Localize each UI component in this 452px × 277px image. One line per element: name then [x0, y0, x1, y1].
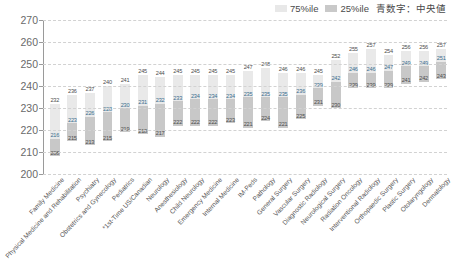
bar-value-p75: 246 — [278, 66, 288, 72]
bar-value-p75: 241 — [120, 77, 130, 83]
legend-item-75ile: 75%ile — [275, 3, 319, 14]
plot-area: 2322162082362232152372262132402282152412… — [43, 20, 447, 174]
gridline — [43, 108, 447, 109]
bar-value-p25: 221 — [278, 121, 288, 127]
gridline — [43, 20, 447, 21]
gridline — [43, 174, 447, 175]
gridline — [43, 130, 447, 131]
bar-value-median: 236 — [296, 88, 306, 94]
bar-value-p75: 255 — [348, 46, 358, 52]
bar-value-median: 235 — [278, 91, 288, 97]
bar-group: 245234222 — [190, 20, 200, 174]
bar-value-median: 242 — [331, 75, 341, 81]
y-axis-labels: 200210220230240250260270 — [0, 20, 38, 174]
bar-value-p75: 244 — [155, 70, 165, 76]
bar-group: 245234222 — [208, 20, 218, 174]
y-axis-tick — [39, 42, 43, 43]
bar-value-p75: 245 — [226, 68, 236, 74]
bar-value-median: 232 — [155, 97, 165, 103]
bar-group: 232216208 — [50, 20, 60, 174]
bar-value-median: 246 — [366, 66, 376, 72]
bar-value-median: 226 — [85, 110, 95, 116]
bar-value-p25: 243 — [436, 73, 446, 79]
bar-group: 256249242 — [419, 20, 429, 174]
bar-value-p75: 256 — [401, 44, 411, 50]
bar-value-median: 251 — [436, 55, 446, 61]
bar-value-p25: 222 — [173, 119, 183, 125]
bar-value-p25: 222 — [208, 119, 218, 125]
bar-group: 257251243 — [436, 20, 446, 174]
bar-group: 256249241 — [401, 20, 411, 174]
legend-label-25ile: 25%ile — [340, 3, 369, 14]
bar-value-median: 216 — [50, 132, 60, 138]
bar-group: 245239231 — [313, 20, 323, 174]
y-axis-tick-label: 250 — [2, 58, 38, 70]
bar-value-p75: 245 — [138, 68, 148, 74]
bar-value-p25: 213 — [85, 139, 95, 145]
bar-value-p25: 230 — [331, 102, 341, 108]
bar-group: 236223215 — [67, 20, 77, 174]
bar-value-p25: 224 — [261, 115, 271, 121]
bar-group: 240228215 — [103, 20, 113, 174]
bar-value-p75: 245 — [190, 68, 200, 74]
bar-group: 237226213 — [85, 20, 95, 174]
bar-group: 246235221 — [278, 20, 288, 174]
legend-note-median: 青数字：中央値 — [376, 1, 446, 15]
y-axis-tick-label: 240 — [2, 80, 38, 92]
bars-container: 2322162082362232152372262132402282152412… — [43, 20, 447, 174]
x-axis-label: Physical Medicine and Rehabilitation — [4, 176, 82, 259]
legend-item-25ile: 25%ile — [325, 3, 369, 14]
bar-value-median: 235 — [243, 91, 253, 97]
bar-group: 257246239 — [366, 20, 376, 174]
y-axis-tick — [39, 130, 43, 131]
gridline — [43, 86, 447, 87]
gridline — [43, 152, 447, 153]
bar-value-median: 234 — [190, 93, 200, 99]
bar-group: 245233222 — [173, 20, 183, 174]
bar-value-p75: 245 — [208, 68, 218, 74]
bar-value-p25: 225 — [296, 113, 306, 119]
bar-value-median: 246 — [348, 66, 358, 72]
bar-value-p25: 231 — [313, 99, 323, 105]
x-axis-labels: Family MedicinePhysical Medicine and Reh… — [43, 176, 447, 256]
bar-group: 255246239 — [348, 20, 358, 174]
y-axis-tick — [39, 174, 43, 175]
bar-value-median: 235 — [261, 91, 271, 97]
chart-container: 75%ile 25%ile 青数字：中央値 200210220230240250… — [0, 0, 452, 277]
bar-value-p75: 254 — [384, 48, 394, 54]
bar-value-p75: 232 — [50, 97, 60, 103]
bar-value-p75: 252 — [331, 53, 341, 59]
legend-swatch-25ile-icon — [325, 5, 337, 12]
bar-value-median: 230 — [120, 102, 130, 108]
bar-group: 245231218 — [138, 20, 148, 174]
y-axis-tick-label: 230 — [2, 102, 38, 114]
bar-group: 245234223 — [226, 20, 236, 174]
bar-value-p75: 236 — [67, 88, 77, 94]
bar-group: 247235221 — [243, 20, 253, 174]
bar-value-p25: 241 — [401, 77, 411, 83]
y-axis-tick — [39, 86, 43, 87]
y-axis-tick-label: 200 — [2, 168, 38, 180]
gridline — [43, 42, 447, 43]
bar-value-p25: 215 — [67, 135, 77, 141]
bar-value-median: 234 — [208, 93, 218, 99]
bar-value-p25: 222 — [190, 119, 200, 125]
bar-value-p25: 221 — [243, 121, 253, 127]
chart-legend: 75%ile 25%ile 青数字：中央値 — [275, 1, 446, 15]
y-axis-tick — [39, 64, 43, 65]
y-axis-tick-label: 270 — [2, 14, 38, 26]
bar-group: 246236225 — [296, 20, 306, 174]
bar-value-median: 223 — [67, 117, 77, 123]
bar-value-p75: 245 — [173, 68, 183, 74]
y-axis-tick-label: 260 — [2, 36, 38, 48]
bar-value-median: 233 — [173, 95, 183, 101]
bar-group: 252242230 — [331, 20, 341, 174]
bar-value-p25: 242 — [419, 75, 429, 81]
bar-value-median: 234 — [226, 93, 236, 99]
y-axis-tick-label: 210 — [2, 146, 38, 158]
bar-group: 248235224 — [261, 20, 271, 174]
bar-value-p75: 256 — [419, 44, 429, 50]
bar-group: 244232217 — [155, 20, 165, 174]
y-axis-tick-label: 220 — [2, 124, 38, 136]
legend-swatch-75ile-icon — [275, 5, 287, 12]
